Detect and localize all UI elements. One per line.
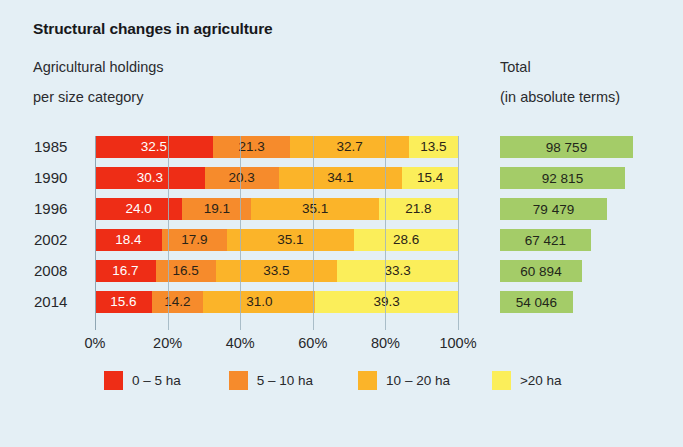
- legend-swatch-icon: [358, 371, 377, 390]
- gridline: [458, 136, 459, 330]
- legend-item[interactable]: 10 – 20 ha: [358, 371, 450, 390]
- legend-swatch-icon: [104, 371, 123, 390]
- bar-segment-value: 15.4: [417, 171, 443, 185]
- bar-segment-value: 33.3: [384, 264, 410, 278]
- year-label: 2002: [34, 229, 90, 251]
- bar-segment[interactable]: 21.3: [213, 136, 290, 158]
- bar-segment-value: 30.3: [137, 171, 163, 185]
- y-axis-line: [95, 136, 96, 330]
- x-axis-tick-label: 100%: [439, 335, 476, 351]
- bar-segment[interactable]: 33.5: [216, 260, 338, 282]
- bar-segment[interactable]: 32.7: [290, 136, 409, 158]
- total-row[interactable]: 67 421: [500, 229, 591, 251]
- bar-segment[interactable]: 32.5: [95, 136, 213, 158]
- totals-bar-chart: 98 75992 81579 47967 42160 89454 046: [500, 136, 660, 330]
- x-axis-tick-label: 60%: [298, 335, 327, 351]
- total-row[interactable]: 92 815: [500, 167, 625, 189]
- bar-segment[interactable]: 31.0: [203, 291, 315, 313]
- bar-segment-value: 15.6: [110, 295, 136, 309]
- legend-label: 10 – 20 ha: [386, 373, 450, 388]
- bar-segment[interactable]: 39.3: [315, 291, 458, 313]
- totals-heading-line-2: (in absolute terms): [500, 89, 620, 105]
- bar-segment[interactable]: 33.3: [337, 260, 458, 282]
- bar-segment[interactable]: 30.3: [95, 167, 205, 189]
- chart-legend: 0 – 5 ha5 – 10 ha10 – 20 ha>20 ha: [104, 369, 562, 391]
- total-bar[interactable]: 67 421: [500, 229, 591, 251]
- infographic-page: Structural changes in agriculture Agricu…: [0, 0, 683, 447]
- bar-segment[interactable]: 16.7: [95, 260, 156, 282]
- total-bar[interactable]: 98 759: [500, 136, 633, 158]
- stacked-bar-row[interactable]: 18.417.935.128.6: [95, 229, 458, 251]
- legend-swatch-icon: [229, 371, 248, 390]
- subtitle-line-1: Agricultural holdings: [33, 59, 164, 75]
- total-row[interactable]: 98 759: [500, 136, 633, 158]
- x-axis-tick-label: 40%: [226, 335, 255, 351]
- bar-segment[interactable]: 14.2: [152, 291, 203, 313]
- bar-segment-value: 13.5: [420, 140, 446, 154]
- bar-segment-value: 28.6: [393, 233, 419, 247]
- bar-segment[interactable]: 24.0: [95, 198, 182, 220]
- total-bar[interactable]: 60 894: [500, 260, 582, 282]
- stacked-bar-row[interactable]: 16.716.533.533.3: [95, 260, 458, 282]
- legend-item[interactable]: 5 – 10 ha: [229, 371, 313, 390]
- total-row[interactable]: 60 894: [500, 260, 582, 282]
- bar-segment-value: 19.1: [204, 202, 230, 216]
- bar-segment-value: 16.5: [172, 264, 198, 278]
- bar-segment[interactable]: 20.3: [205, 167, 279, 189]
- x-axis-tick-label: 80%: [371, 335, 400, 351]
- year-label: 2014: [34, 291, 90, 313]
- bar-segment-value: 35.1: [277, 233, 303, 247]
- bar-segment-value: 18.4: [115, 233, 141, 247]
- legend-item[interactable]: 0 – 5 ha: [104, 371, 181, 390]
- year-label: 1985: [34, 136, 90, 158]
- bar-segment-value: 34.1: [327, 171, 353, 185]
- total-row[interactable]: 79 479: [500, 198, 607, 220]
- total-bar-value: 67 421: [525, 233, 566, 248]
- page-title: Structural changes in agriculture: [33, 20, 273, 38]
- legend-item[interactable]: >20 ha: [492, 371, 562, 390]
- subtitle-line-2: per size category: [33, 89, 143, 105]
- total-row[interactable]: 54 046: [500, 291, 573, 313]
- total-bar[interactable]: 54 046: [500, 291, 573, 313]
- legend-label: 0 – 5 ha: [132, 373, 181, 388]
- bar-segment[interactable]: 35.1: [251, 198, 378, 220]
- bar-segment[interactable]: 19.1: [182, 198, 251, 220]
- bar-segment-value: 20.3: [229, 171, 255, 185]
- bar-segment-value: 21.8: [405, 202, 431, 216]
- legend-swatch-icon: [492, 371, 511, 390]
- bar-segment[interactable]: 35.1: [227, 229, 354, 251]
- year-axis-labels: 198519901996200220082014: [34, 136, 90, 330]
- stacked-bar-rows: 32.521.332.713.530.320.334.115.424.019.1…: [95, 136, 458, 330]
- bar-segment[interactable]: 18.4: [95, 229, 162, 251]
- bar-segment-value: 17.9: [181, 233, 207, 247]
- stacked-bar-row[interactable]: 24.019.135.121.8: [95, 198, 458, 220]
- bar-segment-value: 24.0: [125, 202, 151, 216]
- bar-segment[interactable]: 15.4: [402, 167, 458, 189]
- total-bar-value: 92 815: [542, 171, 583, 186]
- stacked-bar-row[interactable]: 32.521.332.713.5: [95, 136, 458, 158]
- bar-segment-value: 16.7: [112, 264, 138, 278]
- year-label: 2008: [34, 260, 90, 282]
- stacked-bar-row[interactable]: 15.614.231.039.3: [95, 291, 458, 313]
- x-axis-ticks: 0%20%40%60%80%100%: [95, 335, 458, 357]
- x-axis-tick-label: 0%: [85, 335, 106, 351]
- legend-label: 5 – 10 ha: [257, 373, 313, 388]
- total-bar[interactable]: 79 479: [500, 198, 607, 220]
- bar-segment[interactable]: 17.9: [162, 229, 227, 251]
- stacked-bar-row[interactable]: 30.320.334.115.4: [95, 167, 458, 189]
- bar-segment-value: 31.0: [246, 295, 272, 309]
- total-bar-value: 54 046: [516, 295, 557, 310]
- bar-segment-value: 14.2: [164, 295, 190, 309]
- bar-segment[interactable]: 21.8: [379, 198, 458, 220]
- bar-segment-value: 32.7: [336, 140, 362, 154]
- bar-segment-value: 32.5: [141, 140, 167, 154]
- total-bar[interactable]: 92 815: [500, 167, 625, 189]
- bar-segment-value: 35.1: [302, 202, 328, 216]
- bar-segment[interactable]: 28.6: [354, 229, 458, 251]
- bar-segment[interactable]: 16.5: [156, 260, 216, 282]
- year-label: 1996: [34, 198, 90, 220]
- bar-segment[interactable]: 13.5: [409, 136, 458, 158]
- bar-segment[interactable]: 15.6: [95, 291, 152, 313]
- totals-heading-line-1: Total: [500, 59, 531, 75]
- bar-segment[interactable]: 34.1: [279, 167, 403, 189]
